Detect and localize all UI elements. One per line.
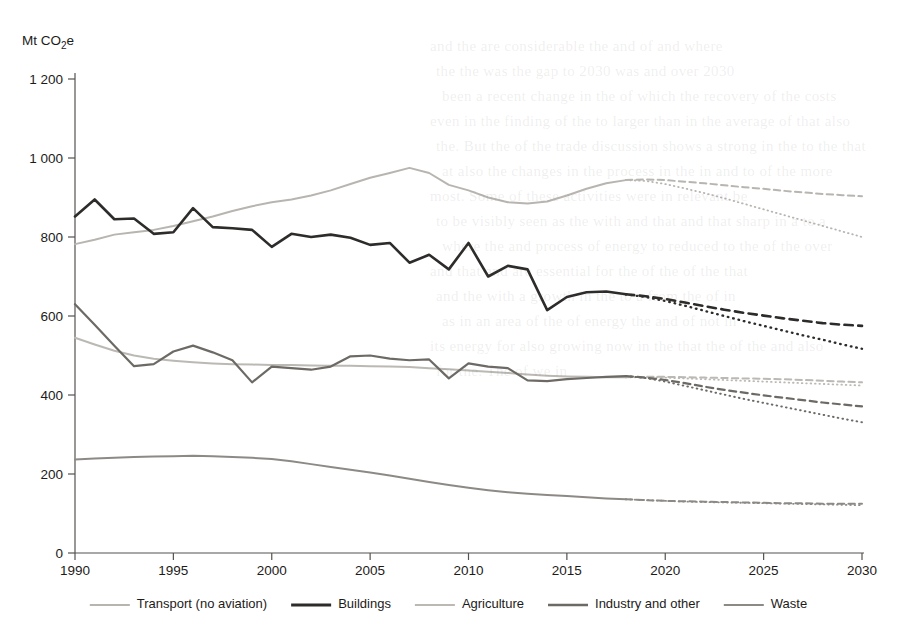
emissions-projection-chart: and the are considerable the and of and … — [0, 0, 897, 637]
y-axis-tick-label: 400 — [40, 388, 63, 403]
chart-canvas: 02004006008001 0001 20019901995200020052… — [0, 0, 897, 637]
x-axis-tick-label: 2030 — [847, 563, 877, 578]
legend-item[interactable]: Waste — [724, 596, 807, 611]
series-projection-wem-line — [626, 179, 862, 196]
series-projection-wam-line — [626, 376, 862, 422]
x-axis-tick-label: 1990 — [60, 563, 90, 578]
x-axis-tick-label: 2015 — [552, 563, 582, 578]
y-axis-tick-label: 200 — [40, 467, 63, 482]
series-historical-line — [75, 199, 626, 310]
y-axis-tick-label: 600 — [40, 309, 63, 324]
y-axis-tick-label: 0 — [55, 546, 63, 561]
series-historical-line — [75, 304, 626, 382]
x-axis-tick-label: 2005 — [355, 563, 385, 578]
series-transport-no-aviation — [75, 168, 862, 244]
series-projection-wam-line — [626, 180, 862, 237]
y-axis-tick-label: 1 000 — [29, 151, 63, 166]
chart-legend: Transport (no aviation)BuildingsAgricult… — [90, 596, 807, 611]
legend-item[interactable]: Agriculture — [415, 596, 524, 611]
legend-item[interactable]: Transport (no aviation) — [90, 596, 267, 611]
chart-axes: 02004006008001 0001 20019901995200020052… — [22, 33, 877, 578]
y-axis-title-suffix: e — [67, 33, 75, 48]
y-axis-tick-label: 1 200 — [29, 72, 63, 87]
legend-label: Agriculture — [462, 596, 524, 611]
legend-label: Waste — [771, 596, 807, 611]
legend-item[interactable]: Buildings — [291, 596, 391, 611]
legend-item[interactable]: Industry and other — [548, 596, 700, 611]
y-axis-title: Mt CO2e — [22, 33, 74, 51]
x-axis-tick-label: 1995 — [158, 563, 188, 578]
series-historical-line — [75, 456, 626, 499]
chart-series — [75, 168, 862, 505]
x-axis-tick-label: 2000 — [257, 563, 287, 578]
series-projection-wam-line — [626, 294, 862, 349]
x-axis-tick-label: 2025 — [749, 563, 779, 578]
x-axis-tick-label: 2020 — [650, 563, 680, 578]
x-axis-tick-label: 2010 — [453, 563, 483, 578]
legend-label: Industry and other — [595, 596, 700, 611]
y-axis-tick-label: 800 — [40, 230, 63, 245]
legend-label: Buildings — [338, 596, 391, 611]
legend-label: Transport (no aviation) — [137, 596, 267, 611]
series-waste — [75, 456, 862, 505]
